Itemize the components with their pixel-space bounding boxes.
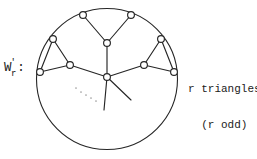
edge-rimupperleft-apexleft	[53, 39, 70, 65]
node-rim-top-right	[128, 12, 135, 19]
figure-wheel-graph: W'r: r triangles (r odd)	[0, 0, 257, 159]
edge-apexleft-hub	[70, 65, 107, 77]
triangle-count-annotation: r triangles (r odd)	[188, 62, 257, 153]
label-prime: '	[11, 58, 16, 68]
graph-name-label: W'r:	[4, 60, 30, 77]
edge-rimlowerleft-apexleft	[40, 65, 70, 72]
node-hub-center	[104, 74, 111, 81]
node-rim-upper-left	[50, 36, 57, 43]
annotation-line-1: r triangles	[188, 84, 257, 95]
node-apex-right	[141, 62, 148, 69]
node-rim-lower-right	[171, 69, 178, 76]
ellipsis-dots	[75, 87, 97, 102]
edge-rimupperright-apexright	[144, 39, 161, 65]
node-apex-left	[67, 62, 74, 69]
node-rim-upper-right	[158, 36, 165, 43]
label-colon: :	[17, 61, 25, 75]
edge-rimlowerright-apexright	[144, 65, 174, 72]
node-rim-lower-left	[37, 69, 44, 76]
stub-edge-down-right	[107, 77, 131, 100]
edge-apexright-hub	[107, 65, 144, 77]
edge-rimupperright-rimlowerright	[161, 39, 174, 72]
edge-rimupperleft-rimlowerleft	[40, 39, 53, 72]
edge-rimtopright-apextop	[107, 15, 131, 43]
label-subscript-r: r	[11, 69, 16, 79]
stub-edge-down	[104, 77, 107, 110]
node-rim-top-left	[80, 12, 87, 19]
graph-edges	[40, 15, 174, 110]
node-apex-top	[104, 40, 111, 47]
annotation-line-2: (r odd)	[188, 120, 257, 131]
edge-rimtopleft-apextop	[83, 15, 107, 43]
